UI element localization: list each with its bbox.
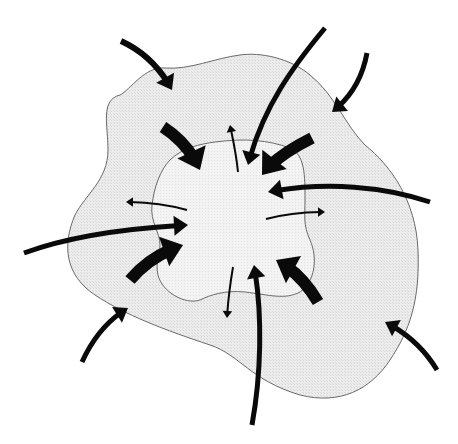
flux-diagram xyxy=(0,0,458,444)
